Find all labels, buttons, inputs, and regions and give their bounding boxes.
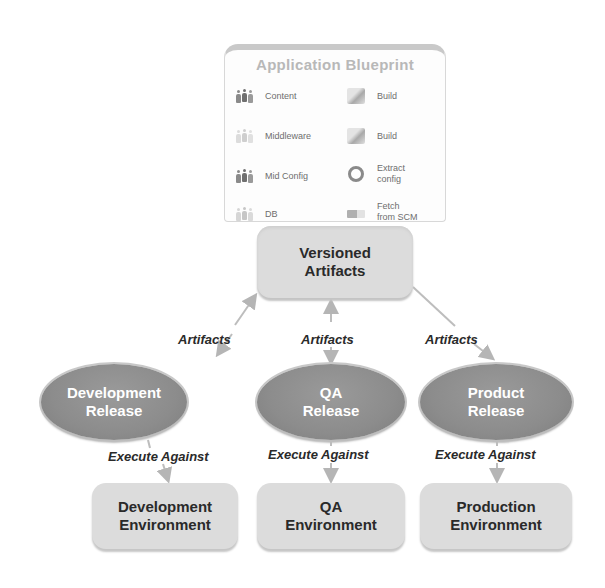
fetch-icon bbox=[347, 210, 365, 218]
build-icon bbox=[347, 88, 365, 104]
production-environment-node: Production Environment bbox=[420, 483, 572, 549]
blueprint-item-extract-config: Extract config bbox=[347, 163, 405, 185]
blueprint-item-build-2: Build bbox=[347, 128, 397, 144]
versioned-artifacts-store: Versioned Artifacts bbox=[257, 226, 413, 298]
blueprint-item-fetch-from-scm: Fetch from SCM bbox=[347, 201, 418, 223]
blueprint-title: Application Blueprint bbox=[225, 56, 445, 73]
application-blueprint-panel: Application Blueprint Content Middleware… bbox=[224, 44, 446, 222]
edge-label-artifacts-product: Artifacts bbox=[425, 332, 478, 347]
blueprint-item-content: Content bbox=[235, 88, 297, 104]
qa-environment-node: QA Environment bbox=[257, 483, 405, 549]
edge-label-artifacts-dev: Artifacts bbox=[178, 332, 231, 347]
gear-icon bbox=[347, 166, 365, 182]
development-release-node: Development Release bbox=[41, 364, 187, 440]
blueprint-item-build-1: Build bbox=[347, 88, 397, 104]
edge-label-execute-product: Execute Against bbox=[435, 447, 536, 462]
people-icon bbox=[235, 88, 253, 104]
product-release-node: Product Release bbox=[420, 364, 572, 440]
edge-label-execute-qa: Execute Against bbox=[268, 447, 369, 462]
blueprint-item-middleware: Middleware bbox=[235, 128, 311, 144]
blueprint-item-db: DB bbox=[235, 206, 278, 222]
qa-release-node: QA Release bbox=[257, 364, 405, 440]
edge-label-execute-dev: Execute Against bbox=[108, 449, 209, 464]
people-icon bbox=[235, 128, 253, 144]
build-icon bbox=[347, 128, 365, 144]
blueprint-item-mid-config: Mid Config bbox=[235, 168, 308, 184]
people-icon bbox=[235, 206, 253, 222]
development-environment-node: Development Environment bbox=[92, 483, 238, 549]
edge-label-artifacts-qa: Artifacts bbox=[301, 332, 354, 347]
people-icon bbox=[235, 168, 253, 184]
